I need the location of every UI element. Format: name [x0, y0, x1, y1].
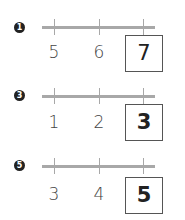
tick-label: 3 — [44, 184, 64, 204]
tick-label: 1 — [44, 112, 64, 132]
answer-box[interactable]: 3 — [125, 104, 163, 141]
tick-mark — [143, 19, 144, 35]
problem-number-badge: 3 — [14, 90, 25, 101]
number-line-problem-3: 3 1 2 3 — [0, 72, 185, 142]
tick-mark — [143, 88, 144, 104]
tick-mark — [54, 19, 55, 35]
tick-label: 6 — [89, 42, 109, 62]
problem-number-badge: 1 — [14, 22, 25, 33]
tick-mark — [143, 158, 144, 174]
tick-mark — [54, 158, 55, 174]
tick-mark — [99, 88, 100, 104]
answer-box[interactable]: 5 — [125, 177, 163, 214]
tick-label: 2 — [89, 112, 109, 132]
tick-label: 4 — [89, 184, 109, 204]
problem-number-badge: 5 — [14, 160, 25, 171]
number-line-problem-5: 5 3 4 5 — [0, 142, 185, 212]
tick-mark — [54, 88, 55, 104]
tick-label: 5 — [44, 42, 64, 62]
tick-mark — [99, 158, 100, 174]
tick-mark — [99, 19, 100, 35]
answer-box[interactable]: 7 — [125, 35, 163, 72]
number-line-problem-1: 1 5 6 7 — [0, 0, 185, 70]
